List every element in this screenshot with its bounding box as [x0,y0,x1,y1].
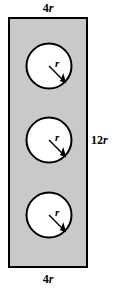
geometry-figure: 4r 4r 12r r r r [0,0,118,292]
dimension-label-bottom: 4r [0,272,96,287]
dimension-label-bottom-variable: r [49,272,54,286]
radius-label-bottom: r [55,207,59,218]
dimension-label-top-variable: r [49,1,54,15]
dimension-label-top: 4r [0,1,96,16]
dimension-label-right-number: 12 [91,133,103,147]
radius-label-middle: r [55,132,59,143]
dimension-label-right: 12r [91,133,108,148]
dimension-label-right-variable: r [103,133,108,147]
radius-label-top: r [55,58,59,69]
